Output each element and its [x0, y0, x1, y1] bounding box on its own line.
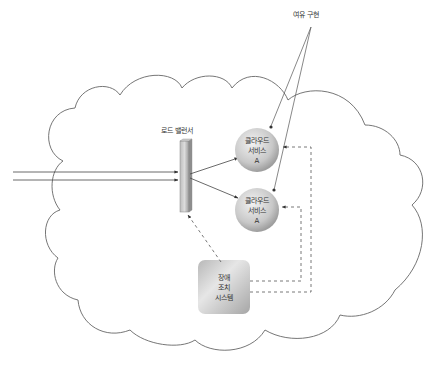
lb-to-service-top-arrow [190, 158, 238, 174]
cloud-service-bottom-label: 클라우드 서비스 A [237, 196, 277, 226]
failover-to-lb-dashed [188, 215, 221, 262]
pointer-dot-top [269, 125, 272, 128]
service-top-line2: 서비스 [237, 146, 277, 156]
service-bottom-line3: A [237, 216, 277, 226]
failover-system-label: 장애 조치 시스템 [204, 273, 244, 303]
redundancy-label: 여유 구현 [293, 10, 319, 20]
failover-line2: 조치 [204, 283, 244, 293]
pointer-dot-bottom [272, 188, 275, 191]
load-balancer-icon [180, 139, 192, 212]
failover-line1: 장애 [204, 273, 244, 283]
service-bottom-line1: 클라우드 [237, 196, 277, 206]
redundancy-pointer-top [271, 27, 311, 126]
service-top-line1: 클라우드 [237, 136, 277, 146]
load-balancer-label: 로드 밸런서 [161, 126, 193, 136]
redundancy-pointer-bottom [274, 27, 311, 190]
lb-to-service-bottom-arrow [190, 178, 238, 198]
cloud-service-top-label: 클라우드 서비스 A [237, 136, 277, 166]
service-bottom-line2: 서비스 [237, 206, 277, 216]
failover-line3: 시스템 [204, 293, 244, 303]
diagram-canvas [0, 0, 439, 371]
service-top-line3: A [237, 156, 277, 166]
